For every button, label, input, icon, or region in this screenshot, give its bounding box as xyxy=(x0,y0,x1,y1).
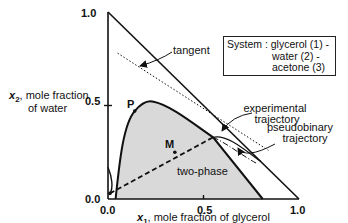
system-line-3: acetone (3) xyxy=(227,62,332,74)
y-tick-label: 0.0 xyxy=(85,193,100,205)
system-legend-box: System : glycerol (1) - water (2) - acet… xyxy=(223,36,336,76)
y-tick-label: 1.0 xyxy=(81,7,96,19)
ternary-diagram: 1.0 0.5 0.0 0.0 0.5 1.0 x2, mole fractio… xyxy=(0,0,348,223)
x-axis-label: x1, mole fraction of glycerol xyxy=(136,211,270,223)
tangent-label: tangent xyxy=(173,44,210,56)
point-P-label: P xyxy=(127,98,134,110)
y-axis-label-line2: of water xyxy=(28,102,67,114)
tie-line-left-marker xyxy=(108,192,112,196)
two-phase-label: two-phase xyxy=(177,165,228,177)
pseudobinary-label-line2: trajectory xyxy=(282,132,328,144)
x-tick-label: 1.0 xyxy=(290,204,305,216)
point-M-marker xyxy=(173,150,177,154)
point-M-label: M xyxy=(165,138,174,150)
x-tick-label: 0.0 xyxy=(100,204,115,216)
system-line-1: System : glycerol (1) - xyxy=(227,39,332,51)
